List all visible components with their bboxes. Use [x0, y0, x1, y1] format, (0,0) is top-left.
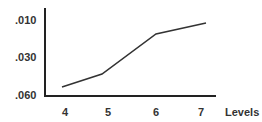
y-tick-label: .060 [15, 89, 36, 101]
x-tick-label: 7 [198, 106, 204, 118]
y-tick-label: .010 [15, 14, 36, 26]
data-line [62, 23, 206, 87]
x-tick-label: 4 [62, 106, 69, 118]
x-tick-label: 6 [153, 106, 159, 118]
x-axis-title: Levels [225, 106, 259, 118]
x-tick-label: 5 [105, 106, 111, 118]
line-chart: .010 .030 .060 4 5 6 7 Levels [0, 0, 262, 122]
y-tick-label: .030 [15, 51, 36, 63]
